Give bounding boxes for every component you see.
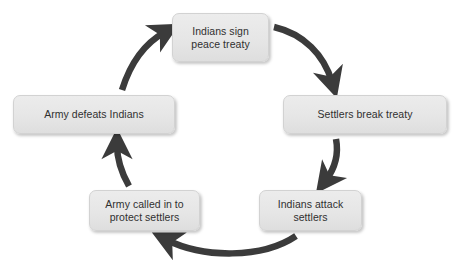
cycle-node-label: Indians sign peace treaty [191,25,249,51]
cycle-diagram: Indians sign peace treaty Settlers break… [0,0,457,271]
cycle-node-line-1: Indians sign [191,25,249,38]
cycle-node-line-2: peace treaty [191,38,249,51]
cycle-node-indians-sign-peace-treaty[interactable]: Indians sign peace treaty [172,13,269,62]
cycle-node-line-2: settlers [278,211,344,224]
arrow-army-called-in-to-army-defeats [117,145,129,186]
cycle-node-label: Army defeats Indians [44,108,144,121]
arrow-sign-treaty-to-break-treaty [274,27,332,82]
arrow-attack-settlers-to-army-called-in [167,236,296,253]
cycle-node-army-defeats-indians[interactable]: Army defeats Indians [13,95,175,134]
cycle-node-settlers-break-treaty[interactable]: Settlers break treaty [283,95,447,134]
cycle-node-label: Settlers break treaty [317,108,412,121]
cycle-node-indians-attack-settlers[interactable]: Indians attack settlers [259,190,362,231]
cycle-node-army-called-in-to-protect-settlers[interactable]: Army called in to protect settlers [89,190,200,231]
cycle-node-line-1: Army called in to [105,198,183,211]
arrow-break-treaty-to-attack-settlers [326,139,337,180]
cycle-node-line-2: protect settlers [105,211,183,224]
arrow-army-defeats-to-sign-treaty [122,32,165,90]
cycle-node-label: Indians attack settlers [278,198,344,224]
cycle-node-line-1: Indians attack [278,198,344,211]
cycle-node-line-1: Settlers break treaty [317,108,412,121]
cycle-node-line-1: Army defeats Indians [44,108,144,121]
cycle-node-label: Army called in to protect settlers [105,198,183,224]
